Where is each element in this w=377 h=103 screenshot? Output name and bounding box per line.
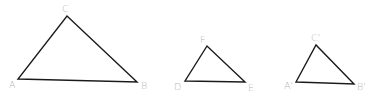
- vertex-label-e: E: [248, 82, 254, 93]
- similar-triangles-diagram: A B C D E F A' B' C': [0, 0, 377, 103]
- triangle-a-prime-b-prime-c-prime-shape: [296, 45, 354, 84]
- vertex-label-a-prime: A': [284, 80, 293, 91]
- vertex-label-c: C: [62, 3, 69, 14]
- vertex-label-d: D: [174, 81, 181, 92]
- triangle-abc: A B C: [9, 3, 147, 91]
- vertex-label-c-prime: C': [311, 32, 320, 43]
- vertex-label-b: B: [141, 80, 147, 91]
- triangle-abc-shape: [18, 16, 137, 82]
- vertex-label-f: F: [200, 34, 205, 45]
- triangle-a-prime-b-prime-c-prime: A' B' C': [284, 32, 366, 92]
- vertex-label-b-prime: B': [357, 81, 366, 92]
- vertex-label-a: A: [9, 79, 16, 90]
- triangle-def: D E F: [174, 34, 254, 93]
- triangle-def-shape: [185, 46, 245, 82]
